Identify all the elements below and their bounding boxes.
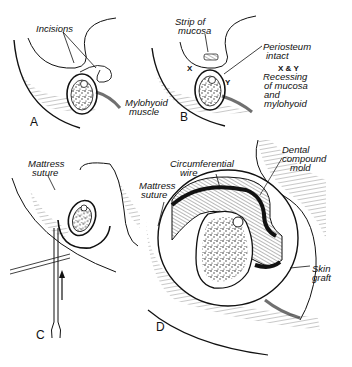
label-periosteum-intact-line2: intact [266, 51, 289, 60]
label-skin-graft-line2: graft [312, 273, 331, 282]
panel-letter-b: B [180, 110, 188, 124]
label-circumferential-wire-line2: wire [180, 168, 197, 177]
label-recessing-line4: mylohyoid [264, 99, 307, 108]
label-mylohyoid-muscle-line2: muscle [129, 107, 159, 116]
label-incisions: Incisions [36, 24, 73, 33]
panel-letter-a: A [30, 115, 38, 129]
label-x: X [187, 64, 192, 73]
label-mattress-suture-c-line2: suture [32, 168, 58, 177]
panel-letter-c: C [36, 328, 45, 342]
label-mattress-suture-d-line2: suture [141, 190, 167, 199]
label-y: Y [225, 78, 230, 87]
panel-a-drawing [14, 18, 120, 128]
diagram-illustration [0, 0, 352, 367]
panel-c-drawing [10, 163, 140, 338]
panel-letter-d: D [156, 320, 165, 334]
label-strip-of-mucosa-line2: mucosa [178, 26, 211, 35]
label-dental-compound-mold-line3: mold [290, 163, 311, 172]
